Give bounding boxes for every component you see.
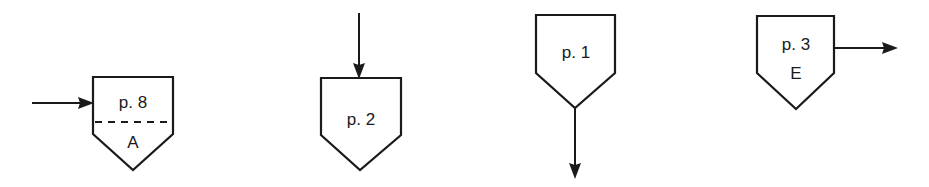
connector-p2: p. 2 (321, 13, 401, 170)
connector-page-label: p. 3 (782, 35, 810, 54)
arrow-head-icon (569, 163, 581, 179)
connector-sub-label: A (127, 133, 139, 152)
connector-page-label: p. 1 (562, 43, 590, 62)
arrow-head-icon (353, 63, 365, 79)
arrow-head-icon (78, 97, 94, 109)
connector-page-label: p. 8 (119, 93, 147, 112)
diagram-canvas: p. 8 A p. 2 p. 1 p. 3 E (0, 0, 929, 187)
arrow-head-icon (882, 42, 898, 54)
connector-p1: p. 1 (536, 15, 615, 179)
connector-sub-label: E (790, 64, 801, 83)
pentagon-connector-shape (757, 16, 834, 109)
pentagon-connector-shape (93, 77, 173, 170)
connector-page-label: p. 2 (347, 110, 375, 129)
connector-p3-e: p. 3 E (757, 16, 898, 109)
connector-p8-a: p. 8 A (32, 77, 173, 170)
